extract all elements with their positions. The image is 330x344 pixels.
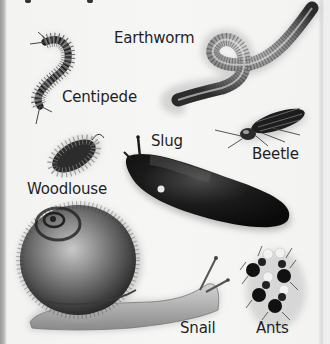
woodlouse-illustration	[45, 128, 108, 183]
beetle-illustration	[215, 104, 310, 148]
label-centipede: Centipede	[62, 90, 137, 105]
top-edge-marks	[25, 0, 93, 3]
illustration-page: Earthworm Centipede Slug Beetle Woodlous…	[0, 0, 330, 344]
creature-illustrations	[0, 0, 330, 344]
ants-illustration	[240, 246, 306, 330]
label-snail: Snail	[180, 321, 216, 336]
label-slug: Slug	[151, 134, 183, 149]
label-woodlouse: Woodlouse	[27, 182, 107, 197]
snail-illustration	[18, 204, 230, 332]
earthworm-illustration	[169, 8, 312, 107]
slug-pneumostome	[158, 186, 165, 193]
label-beetle: Beetle	[252, 147, 299, 162]
centipede-illustration	[30, 32, 68, 124]
label-ants: Ants	[256, 321, 289, 336]
label-earthworm: Earthworm	[114, 31, 194, 46]
